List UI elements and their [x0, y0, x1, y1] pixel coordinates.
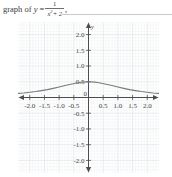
- graph-plot-area: y -2.0-1.5-1.0-0.500.51.01.52.02.01.51.0…: [18, 22, 159, 173]
- svg-text:y: y: [90, 23, 94, 30]
- caption-variable: y: [34, 4, 38, 14]
- svg-text:1.0: 1.0: [76, 62, 85, 70]
- caption-trailing: ,: [65, 4, 67, 14]
- caption-lead: graph of: [3, 4, 32, 14]
- svg-text:-1.5: -1.5: [73, 141, 85, 149]
- svg-text:-1.0: -1.0: [54, 102, 66, 110]
- svg-text:0.5: 0.5: [99, 102, 108, 110]
- svg-text:1.5: 1.5: [128, 102, 137, 110]
- svg-text:-1.0: -1.0: [73, 125, 85, 133]
- svg-text:2.0: 2.0: [76, 31, 85, 39]
- figure-page: graph of y =1x2+ 2, y -2.0-1.5-1.0-0.500…: [0, 0, 172, 177]
- coordinate-graph: y -2.0-1.5-1.0-0.500.51.01.52.02.01.51.0…: [18, 22, 159, 173]
- caption-equals: =: [40, 4, 45, 14]
- figure-caption: graph of y =1x2+ 2,: [3, 1, 67, 17]
- svg-text:1.5: 1.5: [76, 47, 85, 55]
- svg-text:-2.0: -2.0: [73, 157, 85, 165]
- svg-text:-0.5: -0.5: [68, 102, 80, 110]
- svg-text:1.0: 1.0: [114, 102, 123, 110]
- axes-group: y: [19, 23, 159, 173]
- caption-underline-rule: [62, 14, 172, 15]
- denominator-rest: + 2: [53, 10, 62, 17]
- svg-text:-2.0: -2.0: [24, 102, 36, 110]
- svg-text:2.0: 2.0: [143, 102, 152, 110]
- svg-text:0: 0: [84, 90, 88, 98]
- svg-text:-1.5: -1.5: [39, 102, 51, 110]
- fraction-numerator: 1: [45, 1, 64, 8]
- svg-text:-0.5: -0.5: [73, 110, 85, 118]
